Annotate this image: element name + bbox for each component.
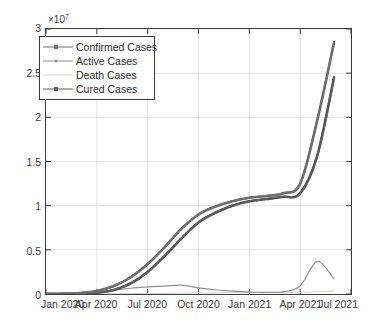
series-marker	[323, 126, 325, 128]
series-marker	[235, 203, 237, 205]
legend-item[interactable]: Death Cases	[43, 68, 150, 82]
series-marker	[314, 162, 316, 164]
series-marker	[320, 103, 322, 105]
series-marker	[316, 122, 318, 124]
series-marker	[333, 79, 335, 81]
series-marker	[324, 86, 326, 88]
series-marker	[320, 140, 322, 142]
legend-line-swatch	[43, 89, 73, 90]
series-marker	[125, 285, 127, 287]
series-marker	[318, 146, 320, 148]
series-marker	[327, 105, 329, 107]
series-marker	[306, 160, 308, 162]
series-marker	[304, 186, 306, 188]
series-marker	[228, 201, 230, 203]
series-marker	[191, 219, 193, 221]
y-axis-tick-label: 2.5	[1, 67, 41, 79]
series-marker	[260, 196, 262, 198]
series-marker	[329, 60, 331, 62]
series-marker	[328, 103, 330, 105]
legend-marker-icon	[55, 60, 58, 63]
series-marker	[312, 137, 314, 139]
series-marker	[316, 154, 318, 156]
series-marker	[251, 200, 253, 202]
series-marker	[243, 201, 245, 203]
series-marker	[200, 219, 202, 221]
series-marker	[106, 288, 108, 290]
legend-item-label: Active Cases	[76, 55, 137, 67]
series-marker	[52, 293, 54, 294]
series-marker	[122, 286, 124, 288]
series-marker	[203, 210, 205, 212]
series-marker	[316, 156, 318, 158]
series-marker	[333, 77, 335, 79]
series-marker	[318, 114, 320, 116]
series-marker	[99, 289, 101, 291]
series-marker	[328, 65, 330, 67]
series-marker	[232, 205, 234, 207]
series-marker	[80, 292, 82, 294]
series-marker	[321, 97, 323, 99]
series-marker	[91, 291, 93, 293]
legend-item[interactable]: Active Cases	[43, 54, 150, 68]
series-marker	[211, 213, 213, 215]
series-marker	[332, 83, 334, 85]
series-marker	[245, 197, 247, 199]
series-marker	[318, 148, 320, 150]
series-marker	[133, 281, 135, 283]
series-marker	[224, 202, 226, 204]
series-marker	[316, 120, 318, 122]
chart-legend[interactable]: Confirmed CasesActive CasesDeath CasesCu…	[39, 36, 155, 100]
legend-marker-icon	[54, 45, 58, 49]
series-marker	[329, 63, 331, 65]
series-marker	[313, 166, 315, 168]
y-axis-tick-label: 1.5	[1, 156, 41, 168]
series-marker	[329, 99, 331, 101]
series-marker	[330, 93, 332, 95]
series-marker	[112, 289, 114, 291]
chart-figure: ×107 00.511.522.53 Jan 2020Apr 2020Jul 2…	[0, 0, 372, 326]
series-marker	[73, 292, 75, 294]
legend-item[interactable]: Cured Cases	[43, 82, 150, 96]
series-marker	[328, 67, 330, 69]
series-marker	[323, 128, 325, 130]
series-marker	[308, 156, 310, 158]
series-marker	[322, 92, 324, 94]
x-axis-tick-label: Oct 2020	[177, 298, 220, 310]
series-marker	[56, 293, 58, 294]
series-marker	[240, 198, 242, 200]
legend-item[interactable]: Confirmed Cases	[43, 40, 150, 54]
series-marker	[325, 116, 327, 118]
series-marker	[136, 279, 138, 281]
series-marker	[319, 109, 321, 111]
series-marker	[283, 192, 285, 194]
series-marker	[232, 200, 234, 202]
series-marker	[279, 193, 281, 195]
series-marker	[308, 177, 310, 179]
series-line	[46, 261, 334, 294]
series-marker	[314, 128, 316, 130]
series-marker	[319, 107, 321, 109]
series-marker	[288, 192, 290, 194]
series-marker	[269, 195, 271, 197]
series-marker	[326, 73, 328, 75]
series-marker	[118, 283, 120, 285]
series-marker	[311, 141, 313, 143]
series-marker	[69, 293, 71, 294]
series-marker	[306, 181, 308, 183]
series-marker	[322, 132, 324, 134]
series-marker	[234, 200, 236, 202]
series-marker	[209, 208, 211, 210]
series-marker	[206, 216, 208, 218]
series-marker	[265, 198, 267, 200]
series-marker	[222, 208, 224, 210]
series-marker	[319, 144, 321, 146]
x-axis-tick-label: Apr 2021	[280, 298, 323, 310]
series-marker	[217, 204, 219, 206]
series-marker	[60, 293, 62, 294]
series-marker	[290, 191, 292, 193]
series-marker	[306, 183, 308, 185]
series-marker	[269, 198, 271, 200]
series-marker	[251, 196, 253, 198]
series-marker	[259, 199, 261, 201]
